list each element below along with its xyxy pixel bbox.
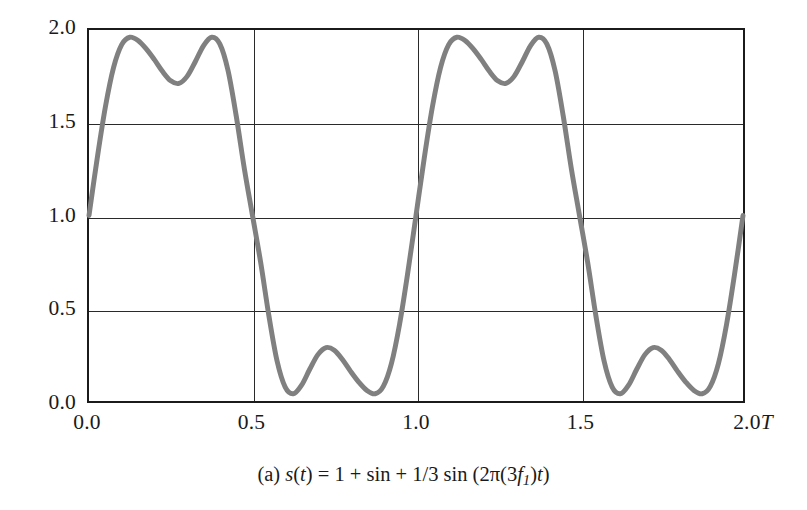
caption-close-paren: ) <box>306 463 313 485</box>
pi-symbol: π <box>490 463 500 485</box>
signal-figure: 0.00.51.01.52.0 0.00.51.01.52.0T (a) s(t… <box>0 0 807 510</box>
y-tick-label: 2.0 <box>49 17 76 39</box>
x-tick-value: 0.0 <box>73 410 100 434</box>
y-tick-label: 0.0 <box>49 392 76 414</box>
signal-curve <box>89 37 743 394</box>
curve-plot <box>89 30 743 401</box>
y-tick-label: 0.5 <box>49 299 76 321</box>
x-tick-value: 2.0 <box>733 410 760 434</box>
y-tick-label: 1.0 <box>49 205 76 227</box>
x-tick-value: 1.0 <box>402 410 429 434</box>
caption-close-outer: ) <box>543 463 550 485</box>
x-tick-label: 0.0 <box>73 412 100 434</box>
x-tick-label: 2.0T <box>733 412 773 434</box>
plot-area <box>87 28 745 403</box>
caption-equals-expr: = 1 + sin + 1/3 sin (2 <box>313 463 490 485</box>
x-tick-label: 1.0 <box>402 412 429 434</box>
x-axis-unit: T <box>761 410 773 434</box>
y-tick-label: 1.5 <box>49 111 76 133</box>
caption-label: (a) <box>257 463 280 485</box>
figure-caption: (a) s(t) = 1 + sin + 1/3 sin (2π(3f1)t) <box>0 462 807 490</box>
x-tick-value: 1.5 <box>567 410 594 434</box>
x-tick-label: 0.5 <box>238 412 265 434</box>
x-tick-value: 0.5 <box>238 410 265 434</box>
x-axis-labels: 0.00.51.01.52.0T <box>0 412 807 442</box>
x-tick-label: 1.5 <box>567 412 594 434</box>
caption-open-3: (3 <box>500 463 517 485</box>
